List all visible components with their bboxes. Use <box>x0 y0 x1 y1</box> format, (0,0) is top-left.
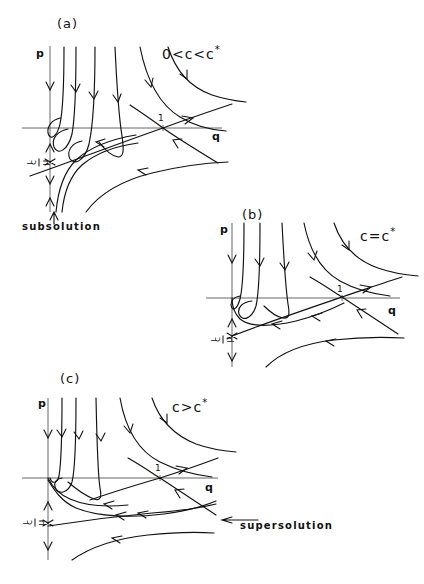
panel-a-fraction-denominator: μ <box>40 160 49 166</box>
separatrix-unstable <box>30 104 232 176</box>
panel-b-fraction-denominator: μ <box>224 337 233 343</box>
separatrix-c-unstable <box>90 458 218 500</box>
panel-c-supersolution-label: supersolution <box>240 521 333 531</box>
panel-b-condition-text: c=c <box>360 228 390 244</box>
panel-a-condition-star: * <box>215 44 221 55</box>
panel-a-vertical-tick-label: − c μ <box>26 152 43 173</box>
panel-c-fraction: c μ <box>24 519 45 527</box>
panel-c: (c) c>c* p q 1 − c μ supersolution <box>0 360 424 584</box>
panel-a-tick-one: 1 <box>158 114 164 123</box>
panel-c-p-axis-label: p <box>38 398 46 409</box>
arrow-c-origin-left1 <box>104 501 114 509</box>
panel-c-tag: (c) <box>60 372 80 385</box>
arrow-c-sweep5-down <box>160 414 167 423</box>
panel-c-plot <box>0 360 424 584</box>
panel-b-tag: (b) <box>242 208 263 221</box>
arrow-sweep4-down <box>113 94 121 102</box>
panel-c-condition: c>c* <box>172 398 208 414</box>
arrow-sweep6-down <box>180 70 187 79</box>
panel-a-condition: 0<c<c* <box>162 45 221 61</box>
panel-a-fraction-numerator: c <box>28 160 37 165</box>
separatrix-b-unstable <box>232 277 402 336</box>
panel-c-tick-one: 1 <box>155 464 161 473</box>
panel-a-subsolution-label: subsolution <box>22 222 101 232</box>
panel-c-q-axis-label: q <box>205 482 213 493</box>
arrow-u3-down <box>89 91 98 99</box>
panel-b-p-axis-label: p <box>220 224 228 235</box>
panel-b-tick-one: 1 <box>337 285 343 294</box>
panel-a-q-axis-label: q <box>212 131 220 142</box>
panel-a-fraction: c μ <box>28 159 49 167</box>
panel-c-condition-star: * <box>202 397 208 408</box>
trajectory-c-u1 <box>50 398 62 482</box>
arrow-sweep5-down <box>145 78 153 87</box>
panel-a-p-axis-label: p <box>36 48 44 59</box>
panel-b-q-axis-label: q <box>388 305 396 316</box>
panel-b-vertical-tick-label: − c μ <box>210 329 227 350</box>
panel-b-fraction-numerator: c <box>212 337 221 342</box>
trajectory-u3 <box>69 47 95 162</box>
panel-b-fraction: c μ <box>212 336 233 344</box>
arrow-b-sweep4-down <box>308 251 317 260</box>
panel-c-fraction-numerator: c <box>24 520 33 525</box>
arrow-b-origin-left2 <box>312 313 322 321</box>
trajectory-lower-left-b <box>62 143 138 212</box>
panel-b-condition-star: * <box>390 226 396 237</box>
panel-c-vertical-tick-label: − c μ <box>22 512 39 533</box>
panel-c-condition-text: c>c <box>172 399 202 415</box>
panel-b: (b) c=c* p q 1 − c μ <box>170 205 424 370</box>
trajectory-c-lower <box>72 532 214 560</box>
panel-a-tag: (a) <box>57 17 78 30</box>
trajectory-b-u1 <box>231 223 244 309</box>
panel-b-condition: c=c* <box>360 227 396 243</box>
trajectory-b-u2 <box>239 223 260 318</box>
separatrix-b-stable <box>310 277 398 334</box>
trajectory-u2 <box>53 47 76 151</box>
panel-c-fraction-denominator: μ <box>36 520 45 526</box>
trajectory-c-u3 <box>68 398 101 500</box>
arrow-c-mid-left <box>138 511 148 518</box>
panel-a-condition-text: 0<c<c <box>162 46 215 62</box>
